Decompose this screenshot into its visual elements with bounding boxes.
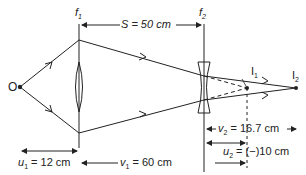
- u1-label: u1 = 12 cm: [18, 157, 71, 170]
- v2-label: v2 = 16.7 cm: [218, 123, 279, 136]
- object-point: [18, 85, 22, 89]
- image1-label: I1: [251, 66, 258, 79]
- image2-label: I2: [292, 70, 299, 83]
- image2-point: [294, 86, 298, 90]
- image1-point: [245, 86, 249, 90]
- optics-diagram: O f1 f2 I1 I2 S = 50 cm u1 = 12 cm v1 = …: [0, 0, 306, 175]
- lens1-label: f1: [75, 7, 82, 20]
- v1-label: v1 = 60 cm: [120, 157, 172, 170]
- separation-label: S = 50 cm: [121, 19, 171, 30]
- lens2-label: f2: [199, 7, 206, 20]
- u2-label: u2 = (−)10 cm: [223, 146, 289, 159]
- object-label: O: [8, 81, 17, 93]
